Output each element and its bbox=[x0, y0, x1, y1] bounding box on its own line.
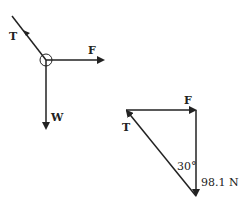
triangle-tension-side bbox=[127, 111, 196, 196]
tension-label: T bbox=[9, 30, 18, 43]
triangle-tension-label: T bbox=[122, 121, 131, 134]
tension-arrowhead bbox=[23, 30, 30, 36]
weight-label: W bbox=[50, 111, 64, 124]
force-label: F bbox=[88, 44, 96, 57]
triangle-force-label: F bbox=[184, 94, 192, 107]
angle-label: 30° bbox=[177, 160, 197, 173]
weight-value-label: 98.1 N bbox=[201, 176, 239, 189]
vector-triangle: F T 30° 98.1 N bbox=[122, 94, 239, 196]
free-body-diagram: T F W bbox=[9, 16, 103, 128]
force-diagram: T F W F T 30° 98.1 N bbox=[0, 0, 245, 199]
